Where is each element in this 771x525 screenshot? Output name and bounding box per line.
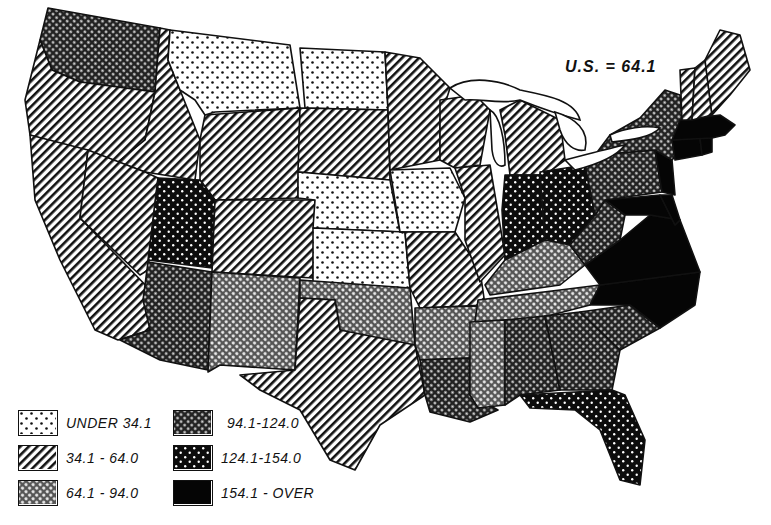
legend-item-124-154: 124.1-154.0 bbox=[173, 445, 301, 471]
state-CO bbox=[212, 200, 315, 278]
legend-swatch-dark-crosshatch bbox=[173, 410, 213, 436]
legend-label: 34.1 - 64.0 bbox=[66, 450, 138, 466]
state-NM bbox=[208, 272, 300, 372]
legend-swatch-white-dots-on-black bbox=[173, 445, 213, 471]
legend-label: 64.1 - 94.0 bbox=[66, 485, 138, 501]
legend-label: 124.1-154.0 bbox=[221, 450, 301, 466]
legend-item-under-34: UNDER 34.1 bbox=[18, 410, 152, 436]
legend-item-64-94: 64.1 - 94.0 bbox=[18, 480, 138, 506]
state-WI bbox=[440, 95, 490, 168]
legend-swatch-diagonal-lines bbox=[18, 445, 58, 471]
legend-label: 154.1 - OVER bbox=[221, 485, 314, 501]
state-FL bbox=[520, 390, 645, 485]
state-ND bbox=[300, 48, 388, 110]
state-IA bbox=[390, 168, 465, 232]
state-ME bbox=[705, 30, 750, 115]
state-MS bbox=[470, 320, 505, 408]
state-AR bbox=[415, 306, 478, 360]
legend-swatch-light-crosshatch bbox=[18, 480, 58, 506]
state-CT bbox=[672, 138, 702, 160]
state-MT bbox=[168, 30, 300, 115]
state-SD bbox=[298, 108, 390, 180]
legend-swatch-solid-black bbox=[173, 480, 213, 506]
state-KS bbox=[313, 228, 410, 288]
legend-item-34-64: 34.1 - 64.0 bbox=[18, 445, 138, 471]
state-RI bbox=[700, 138, 712, 155]
legend: UNDER 34.1 34.1 - 64.0 64.1 - 94.0 94.1-… bbox=[18, 410, 318, 520]
legend-swatch-sparse-dots bbox=[18, 410, 58, 436]
legend-item-94-124: 94.1-124.0 bbox=[173, 410, 299, 436]
state-UT bbox=[148, 178, 215, 268]
state-WY bbox=[200, 108, 300, 200]
legend-label: UNDER 34.1 bbox=[66, 415, 152, 431]
legend-label: 94.1-124.0 bbox=[227, 415, 299, 431]
us-average-label: U.S. = 64.1 bbox=[565, 58, 657, 76]
legend-item-154-over: 154.1 - OVER bbox=[173, 480, 314, 506]
